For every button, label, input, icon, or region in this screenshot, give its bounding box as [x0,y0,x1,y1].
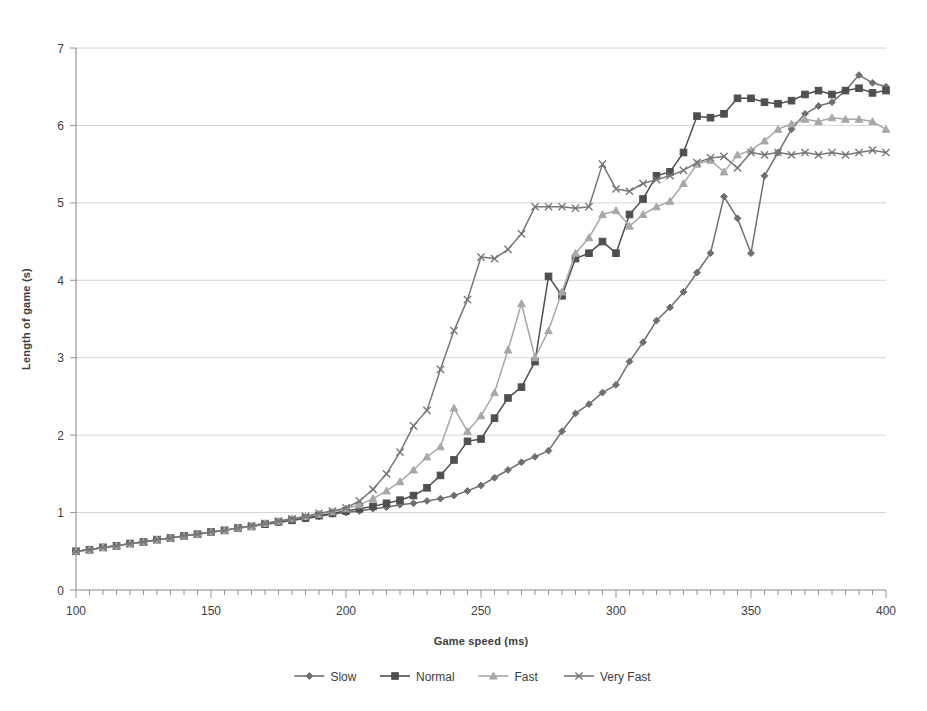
triangle-marker-icon [491,389,499,396]
data-point-marker [694,113,701,120]
data-point-marker [748,95,755,102]
data-point-marker [761,99,768,106]
legend-label: Fast [514,670,538,684]
square-marker-icon [505,395,512,402]
x-tick-label: 250 [471,604,491,618]
square-marker-icon [842,87,849,94]
data-point-marker [437,366,444,373]
series-line-path [76,75,886,551]
square-marker-icon [451,457,458,464]
data-point-marker [464,438,471,445]
triangle-marker-icon [477,412,485,419]
data-point-marker [613,250,620,257]
legend-item-fast[interactable]: Fast [478,670,538,684]
square-marker-icon [424,484,431,491]
data-point-marker [518,459,525,466]
legend-label: Slow [330,670,356,684]
data-point-marker [748,250,755,257]
axes [76,48,886,590]
legend-label: Normal [416,670,455,684]
data-point-marker [599,161,606,168]
diamond-marker-icon [451,492,458,499]
square-marker-icon [734,95,741,102]
square-marker-icon [518,384,525,391]
square-marker-icon [694,113,701,120]
x-tick-label: 200 [336,604,356,618]
diamond-marker-icon [410,500,417,507]
triangle-marker-icon [437,443,445,450]
data-point-marker [424,484,431,491]
legend-item-slow[interactable]: Slow [294,670,356,684]
data-point-marker [451,492,458,499]
data-point-marker [829,91,836,98]
square-marker-icon [829,91,836,98]
diamond-marker-icon [491,474,498,481]
data-point-marker [437,443,445,450]
data-point-marker [505,395,512,402]
square-marker-icon [721,111,728,118]
data-point-marker [504,246,511,253]
x-axis-minor-ticks [76,590,886,598]
square-marker-icon [464,438,471,445]
diamond-marker-icon [505,467,512,474]
square-marker-icon [383,500,390,507]
data-point-marker [680,149,687,156]
square-marker-icon [883,87,890,94]
data-point-marker [370,503,377,510]
data-point-marker [504,346,512,353]
series-very-fast [72,147,889,555]
data-point-marker [306,673,313,680]
diamond-marker-icon [532,453,539,460]
data-point-marker [707,114,714,121]
square-marker-icon [599,238,606,245]
data-point-marker [383,500,390,507]
data-point-marker [869,79,876,86]
triangle-marker-icon [369,495,377,502]
diamond-marker-icon [748,250,755,257]
data-point-marker [585,234,593,241]
data-point-marker [450,404,458,411]
data-point-marker [423,407,430,414]
x-axis-labels: 100150200250300350400 [66,604,896,618]
square-marker-icon [707,114,714,121]
legend-item-very-fast[interactable]: Very Fast [564,670,651,684]
y-tick-label: 7 [57,42,64,56]
square-marker-icon [545,273,552,280]
data-point-marker [815,103,822,110]
square-marker-icon [392,673,399,680]
y-tick-label: 6 [57,119,64,133]
y-tick-label: 4 [57,274,64,288]
square-marker-icon [437,472,444,479]
legend-item-normal[interactable]: Normal [380,670,455,684]
y-tick-label: 5 [57,196,64,210]
data-point-marker [464,296,471,303]
x-tick-label: 150 [201,604,221,618]
data-point-marker [477,412,485,419]
x-axis-title: Game speed (ms) [434,635,529,647]
data-point-marker [734,164,741,171]
data-point-marker [586,250,593,257]
square-marker-icon [626,211,633,218]
square-marker-icon [410,492,417,499]
square-marker-icon [761,99,768,106]
data-point-marker [383,470,390,477]
square-marker-icon [478,436,485,443]
data-point-marker [491,415,498,422]
data-point-marker [392,673,399,680]
square-marker-icon [802,91,809,98]
data-point-marker [518,384,525,391]
diamond-marker-icon [464,487,471,494]
data-point-marker [626,211,633,218]
square-marker-icon [856,85,863,92]
data-point-marker [450,327,457,334]
square-marker-icon [613,250,620,257]
diamond-marker-icon [518,459,525,466]
data-point-marker [491,389,499,396]
diamond-marker-icon [815,103,822,110]
diamond-marker-icon [424,498,431,505]
diamond-marker-icon [761,172,768,179]
triangle-marker-icon [504,346,512,353]
data-point-marker [721,193,728,200]
data-point-marker [815,87,822,94]
data-point-marker [639,211,647,218]
